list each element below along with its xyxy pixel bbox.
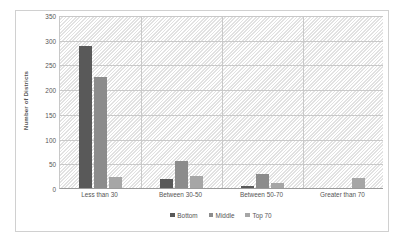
bar[interactable]	[271, 183, 284, 188]
legend-label: Bottom	[177, 212, 197, 219]
y-axis-title: Number of Districts	[19, 11, 33, 189]
y-axis-tick-0: 0	[32, 186, 56, 193]
bar[interactable]	[241, 186, 254, 188]
legend-swatch-icon	[170, 213, 175, 218]
x-axis-tick-labels: Less than 30Between 30-50Between 50-70Gr…	[59, 191, 383, 205]
bar[interactable]	[79, 46, 92, 188]
bar[interactable]	[175, 161, 188, 188]
bar[interactable]	[160, 179, 173, 188]
bar[interactable]	[94, 77, 107, 188]
bar[interactable]	[256, 174, 269, 188]
y-axis-tick-100: 100	[32, 136, 56, 143]
x-axis-tick-label: Between 50-70	[221, 191, 302, 198]
y-axis-tick-150: 150	[32, 111, 56, 118]
bar[interactable]	[109, 177, 122, 188]
y-axis-tick-350: 350	[32, 13, 56, 20]
legend-item[interactable]: Top 70	[245, 212, 271, 219]
y-axis-tick-300: 300	[32, 37, 56, 44]
bar-group	[141, 16, 222, 188]
bars-layer	[60, 16, 383, 188]
x-axis-tick-label: Less than 30	[59, 191, 140, 198]
y-axis-tick-labels: 350300250200150100500	[32, 16, 56, 189]
y-axis-tick-50: 50	[32, 161, 56, 168]
legend-label: Middle	[216, 212, 235, 219]
bar-group	[60, 16, 141, 188]
chart-frame: Number of Districts 35030025020015010050…	[15, 10, 389, 232]
legend-item[interactable]: Bottom	[170, 212, 197, 219]
bar[interactable]	[352, 178, 365, 188]
bar[interactable]	[190, 176, 203, 188]
legend-swatch-icon	[245, 213, 250, 218]
legend-swatch-icon	[209, 213, 214, 218]
y-axis-title-text: Number of Districts	[23, 70, 30, 129]
plot-area	[59, 16, 383, 189]
chart-legend: BottomMiddleTop 70	[59, 209, 383, 221]
y-axis-tick-250: 250	[32, 62, 56, 69]
x-axis-tick-label: Between 30-50	[140, 191, 221, 198]
y-axis-tick-200: 200	[32, 87, 56, 94]
bar-group	[303, 16, 383, 188]
x-axis-tick-label: Greater than 70	[302, 191, 383, 198]
legend-item[interactable]: Middle	[209, 212, 235, 219]
bar-group	[222, 16, 303, 188]
legend-label: Top 70	[252, 212, 271, 219]
